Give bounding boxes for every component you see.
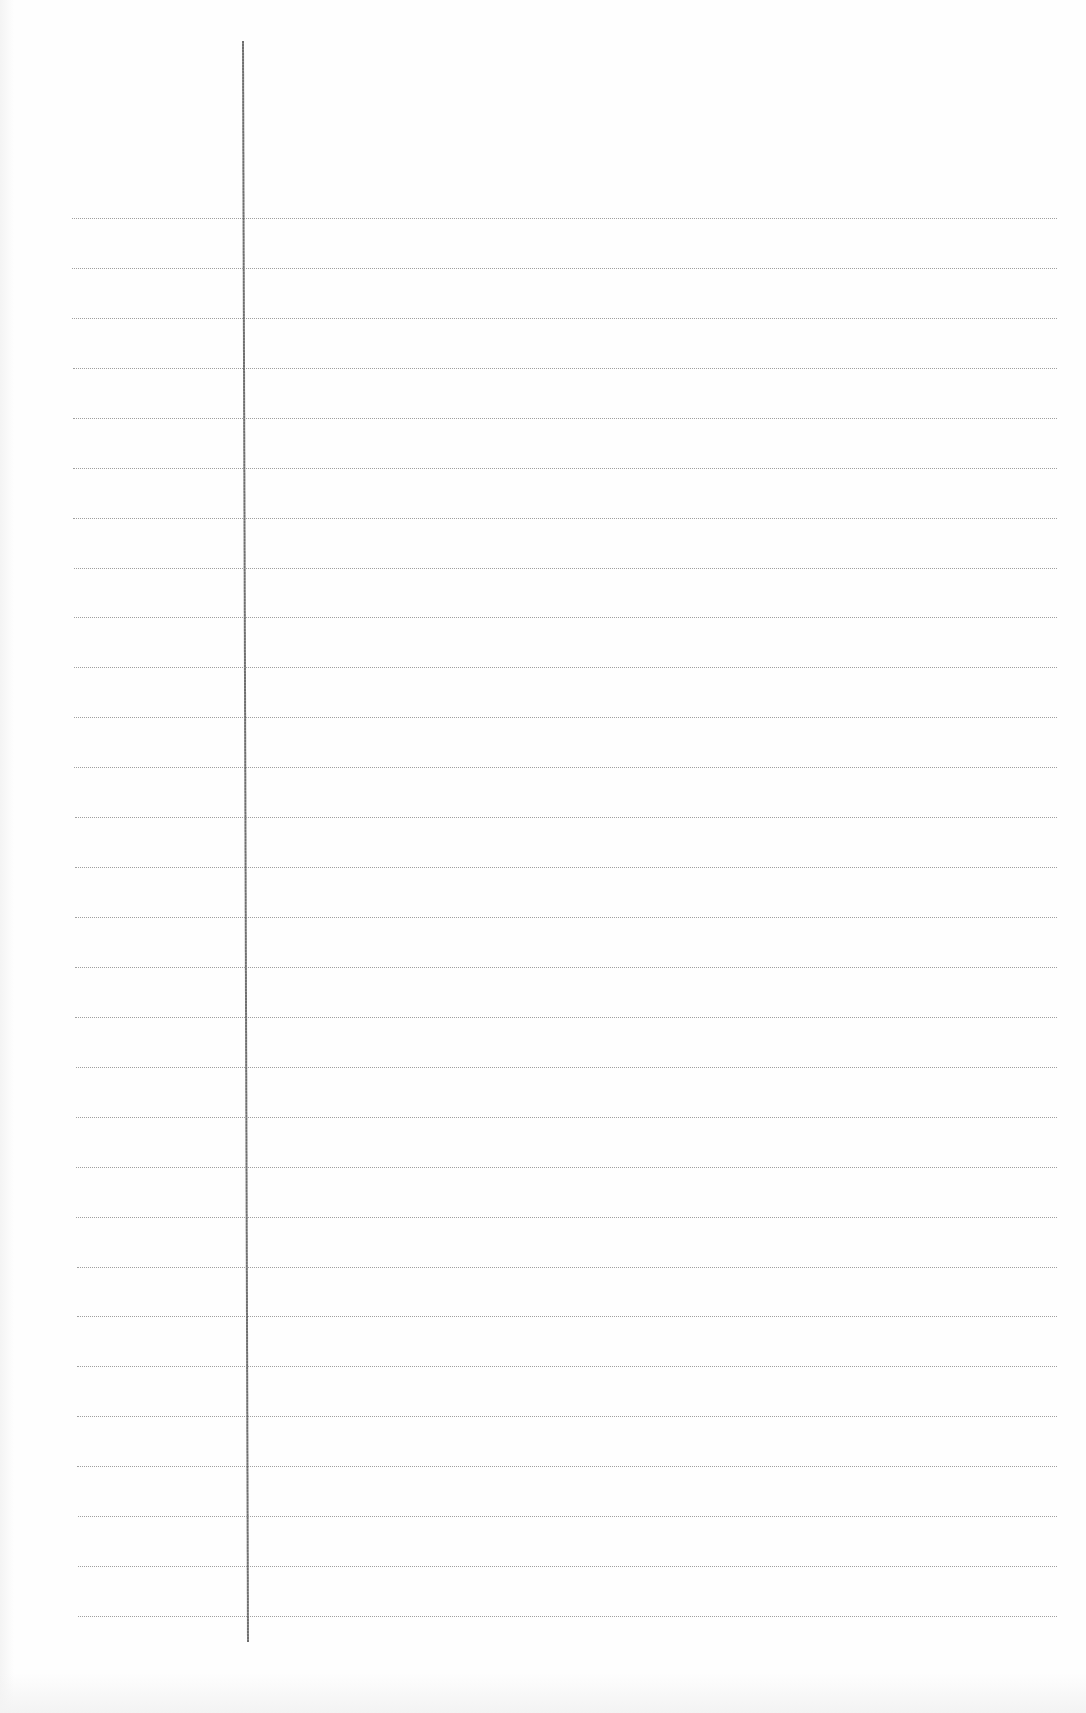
ruled-line [77,1466,1057,1467]
ruled-line [73,468,1057,469]
ruled-line [75,867,1057,868]
ruled-line [74,617,1057,618]
ruled-line [76,1067,1057,1068]
ruled-line [73,418,1057,419]
ruled-line [78,1516,1057,1517]
ruled-line [78,1616,1057,1617]
ruled-line [77,1316,1057,1317]
ruled-line [75,917,1057,918]
ruled-line [77,1366,1057,1367]
ruled-line [75,1017,1057,1018]
ruled-line [72,268,1057,269]
ruled-line [73,368,1057,369]
ruled-line [76,1217,1057,1218]
ruled-line [74,568,1057,569]
notebook-page [0,0,1086,1713]
ruled-line [76,1117,1057,1118]
ruled-line [72,218,1057,219]
ruled-line [72,318,1057,319]
ruled-line [74,667,1057,668]
ruled-line [73,518,1057,519]
ruled-line [74,767,1057,768]
ruled-line [75,817,1057,818]
ruled-line [74,717,1057,718]
ruled-line [78,1566,1057,1567]
ruled-line [75,967,1057,968]
ruled-line [77,1416,1057,1417]
ruled-line [77,1267,1057,1268]
ruled-lines [0,0,1086,1713]
ruled-line [76,1167,1057,1168]
